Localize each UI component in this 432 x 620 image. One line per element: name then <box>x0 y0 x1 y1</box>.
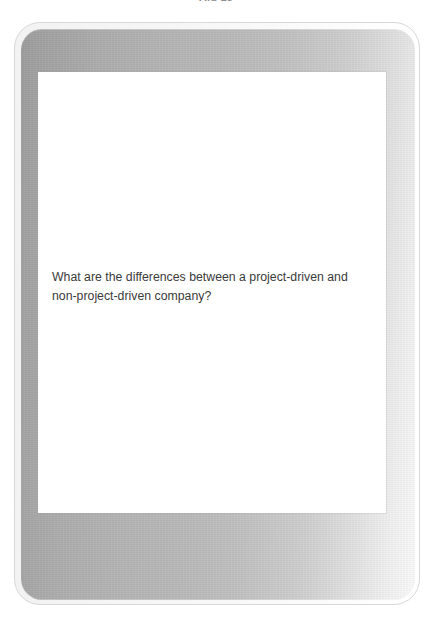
question-line-1: What are the differences between a proje… <box>52 268 368 287</box>
page-caption: Aid 13 <box>0 0 432 3</box>
screen-page: What are the differences between a proje… <box>38 72 386 513</box>
question-text: What are the differences between a proje… <box>52 268 368 306</box>
question-line-2: non-project-driven company? <box>52 287 368 306</box>
